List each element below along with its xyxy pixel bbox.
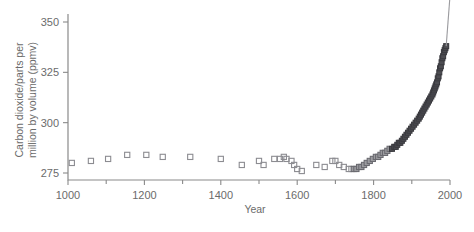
projection-line-group xyxy=(446,0,451,46)
data-point xyxy=(272,156,277,161)
series-1 xyxy=(351,146,392,171)
x-axis-title: Year xyxy=(244,203,266,215)
data-point xyxy=(239,162,244,167)
y-axis-title-line1: Carbon dioxide/parts per xyxy=(13,42,25,157)
y-axis-title-line2: million by volume (ppmv) xyxy=(26,42,38,158)
tick-label-group: 275300325350100012001400160018002000 xyxy=(41,16,463,201)
y-tick-label-300: 300 xyxy=(41,117,59,129)
y-tick-label-350: 350 xyxy=(41,16,59,28)
data-point xyxy=(160,154,165,159)
data-point xyxy=(188,154,193,159)
chart-canvas: 275300325350100012001400160018002000 Yea… xyxy=(0,0,474,232)
data-point xyxy=(69,160,74,165)
y-axis-title: Carbon dioxide/parts permillion by volum… xyxy=(13,42,38,158)
x-tick-label-1200: 1200 xyxy=(132,189,156,201)
data-point xyxy=(88,158,93,163)
axis-spines xyxy=(68,14,450,180)
series-2 xyxy=(389,44,448,152)
axes-group xyxy=(68,14,450,180)
data-point xyxy=(144,152,149,157)
x-tick-label-1000: 1000 xyxy=(56,189,80,201)
x-tick-label-1800: 1800 xyxy=(361,189,385,201)
data-point xyxy=(125,152,130,157)
x-tick-label-1400: 1400 xyxy=(209,189,233,201)
y-tick-label-325: 325 xyxy=(41,66,59,78)
data-point xyxy=(106,156,111,161)
x-tick-label-2000: 2000 xyxy=(438,189,462,201)
data-point xyxy=(314,162,319,167)
y-tick-label-275: 275 xyxy=(41,167,59,179)
data-point xyxy=(218,156,223,161)
data-marker-group xyxy=(69,44,448,174)
x-tick-label-1600: 1600 xyxy=(285,189,309,201)
projection-line xyxy=(446,0,451,46)
series-0 xyxy=(69,152,354,173)
data-point xyxy=(277,156,282,161)
co2-scatter-chart: 275300325350100012001400160018002000 Yea… xyxy=(0,0,474,232)
data-point xyxy=(322,164,327,169)
